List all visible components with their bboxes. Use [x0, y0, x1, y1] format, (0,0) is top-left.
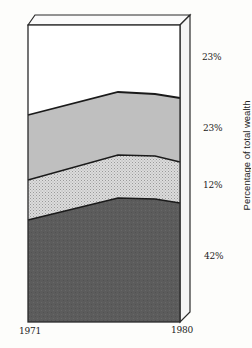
x-axis-end-label: 1980 [171, 325, 193, 335]
box-right-face [180, 15, 190, 322]
band-top-value-label: 23% [202, 52, 221, 62]
x-axis-start-label: 1971 [19, 326, 41, 336]
y-axis-label: Percentage of total wealth [241, 94, 252, 218]
band-bottom-dark [28, 198, 180, 322]
box-top-face [28, 15, 190, 25]
band-third-value-label: 23% [203, 123, 222, 133]
band-bottom-value-label: 42% [204, 251, 223, 261]
band-second-value-label: 12% [203, 180, 222, 190]
